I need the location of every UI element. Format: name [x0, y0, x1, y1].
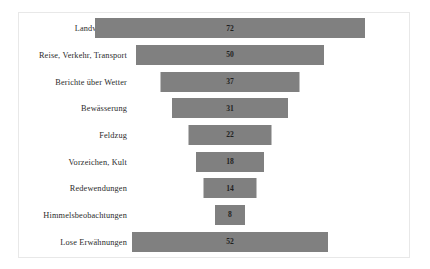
funnel-bar-track: 52 [19, 228, 409, 255]
funnel-bar-value: 50 [226, 51, 234, 59]
funnel-row: Feldzug22 [19, 122, 409, 149]
funnel-bar[interactable]: 50 [136, 45, 324, 65]
funnel-bar[interactable]: 31 [172, 98, 288, 118]
funnel-bar-value: 8 [228, 211, 232, 219]
funnel-bar-track: 72 [19, 15, 409, 42]
funnel-bar-value: 18 [226, 158, 234, 166]
funnel-row: Berichte über Wetter37 [19, 68, 409, 95]
funnel-bar[interactable]: 22 [189, 125, 272, 145]
funnel-bar[interactable]: 52 [132, 232, 328, 252]
funnel-bar-value: 31 [226, 105, 234, 113]
funnel-bar[interactable]: 18 [196, 152, 264, 172]
funnel-row: Lose Erwähnungen52 [19, 228, 409, 255]
funnel-bar-value: 37 [226, 78, 234, 86]
funnel-bar-track: 18 [19, 148, 409, 175]
funnel-bar-track: 31 [19, 95, 409, 122]
funnel-bar[interactable]: 37 [161, 72, 300, 92]
funnel-bar-value: 14 [226, 185, 234, 193]
funnel-row: Redewendungen14 [19, 175, 409, 202]
funnel-bar-track: 50 [19, 42, 409, 69]
funnel-row: Himmelsbeobachtungen8 [19, 202, 409, 229]
funnel-bar[interactable]: 14 [204, 178, 257, 198]
funnel-row: Reise, Verkehr, Transport50 [19, 42, 409, 69]
funnel-bar-value: 72 [226, 25, 234, 33]
funnel-row: Landwirtschaft72 [19, 15, 409, 42]
funnel-row: Bewässerung31 [19, 95, 409, 122]
funnel-bar-value: 22 [226, 131, 234, 139]
funnel-bar-track: 22 [19, 122, 409, 149]
funnel-chart: Landwirtschaft72Reise, Verkehr, Transpor… [19, 13, 409, 257]
chart-frame: Landwirtschaft72Reise, Verkehr, Transpor… [18, 12, 410, 258]
funnel-bar-track: 8 [19, 202, 409, 229]
funnel-bar-track: 37 [19, 68, 409, 95]
funnel-bar-track: 14 [19, 175, 409, 202]
funnel-bar[interactable]: 72 [95, 18, 365, 38]
funnel-row: Vorzeichen, Kult18 [19, 148, 409, 175]
funnel-bar-value: 52 [226, 238, 234, 246]
funnel-bar[interactable]: 8 [215, 205, 245, 225]
